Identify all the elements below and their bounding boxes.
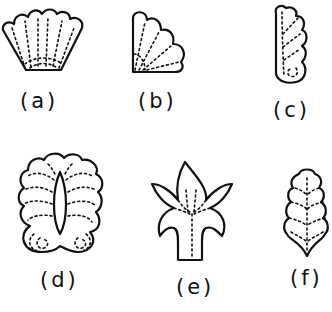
quarter-fan-icon	[131, 10, 197, 76]
figure-d-palmette	[14, 150, 106, 256]
fleur-de-lis-icon	[150, 160, 234, 264]
figure-b-quarter-fan	[131, 10, 197, 76]
figure-c-scroll-leaf	[270, 2, 314, 86]
shell-fan-icon	[0, 4, 90, 76]
scalloped-leaf-icon	[283, 168, 331, 260]
figure-f-scalloped-leaf	[283, 168, 331, 260]
figure-f-label: (f)	[290, 266, 323, 290]
figure-d-label: (d)	[40, 268, 79, 292]
figure-a-shell-fan	[0, 4, 90, 76]
figure-c-label: (c)	[273, 98, 310, 122]
palmette-icon	[14, 150, 106, 256]
figure-a-label: (a)	[20, 89, 58, 113]
figure-b-label: (b)	[138, 89, 177, 113]
figure-e-fleur-de-lis	[150, 160, 234, 264]
scroll-leaf-icon	[270, 2, 314, 86]
figure-e-label: (e)	[176, 275, 214, 299]
